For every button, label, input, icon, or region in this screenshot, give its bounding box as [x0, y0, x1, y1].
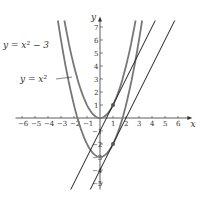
svg-text:6: 6	[176, 120, 181, 128]
svg-text:4: 4	[94, 63, 99, 71]
y-axis-arrow-icon	[98, 17, 102, 22]
svg-text:2: 2	[94, 89, 98, 97]
svg-text:4: 4	[150, 120, 155, 128]
label-leader-line	[56, 77, 72, 79]
svg-text:−4: −4	[44, 120, 55, 128]
label-y-equals-x-squared: y = x²	[19, 74, 47, 84]
x-axis-label: x	[190, 119, 195, 129]
svg-text:3: 3	[94, 76, 98, 84]
y-axis-label: y	[90, 12, 97, 22]
tangent-point	[111, 142, 115, 146]
svg-text:−6: −6	[18, 120, 29, 128]
svg-text:6: 6	[94, 37, 99, 45]
label-y-equals-x-squared-minus-3: y = x² − 3	[2, 40, 49, 50]
chart: xy−6−5−4−3−2−1123456−5−4−3−2−11234567y =…	[0, 0, 201, 204]
svg-text:−5: −5	[31, 120, 41, 128]
svg-text:7: 7	[94, 24, 98, 32]
svg-text:1: 1	[94, 102, 98, 110]
svg-text:1: 1	[111, 120, 115, 128]
svg-text:5: 5	[94, 50, 98, 58]
svg-text:3: 3	[137, 120, 141, 128]
svg-text:−3: −3	[57, 120, 67, 128]
svg-text:5: 5	[163, 120, 167, 128]
tangent-point	[111, 103, 115, 107]
plot-area: xy−6−5−4−3−2−1123456−5−4−3−2−11234567y =…	[0, 0, 201, 204]
